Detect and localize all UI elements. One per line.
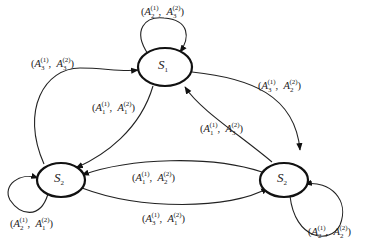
edge-top-to-left — [76, 86, 153, 168]
edge-label-right-to-left-upper: (A1(1), A2(2)) — [132, 170, 175, 186]
edge-label-loop-right: (A2(1), A2(2)) — [308, 224, 351, 240]
edge-label-loop-top: (A2(1), A3(2)) — [141, 4, 184, 20]
edge-label-right-to-top: (A1(1), A3(2)) — [200, 121, 243, 137]
edge-label-top-to-right: (A3(1), A2(2)) — [258, 78, 301, 94]
edge-left-to-right-lower — [82, 188, 268, 205]
edge-label-loop-left: (A2(1), A1(2)) — [10, 216, 53, 232]
edge-label-top-to-left: (A1(1), A1(2)) — [92, 100, 135, 116]
node-label-s1: S1 — [158, 57, 168, 74]
diagram-canvas — [0, 0, 366, 245]
edge-label-left-to-right-lower: (A3(1), A1(2)) — [142, 211, 185, 227]
node-label-s2-left: S2 — [54, 170, 64, 187]
edge-left-to-top — [35, 68, 138, 164]
edge-label-left-to-top: (A3(1), A3(2)) — [31, 56, 74, 72]
node-label-s2-right: S2 — [277, 170, 287, 187]
